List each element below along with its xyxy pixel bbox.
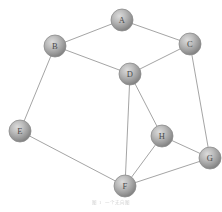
node-circle-e — [9, 120, 31, 142]
node-circle-a — [111, 9, 133, 31]
node-circle-h — [151, 125, 173, 147]
graph-edge-b-d — [65, 50, 120, 71]
graph-edge-e-f — [29, 136, 115, 181]
graph-edge-c-g — [192, 54, 208, 147]
node-circle-f — [114, 175, 136, 197]
graph-node-g[interactable]: G — [199, 147, 221, 169]
node-circle-g — [199, 147, 221, 169]
graph-node-e[interactable]: E — [9, 120, 31, 142]
graph-edge-g-h — [172, 140, 201, 153]
node-circle-b — [44, 35, 66, 57]
graph-edge-c-d — [139, 49, 180, 70]
figure-caption: 图 1 一个无向图 — [0, 199, 222, 205]
graph-diagram: ABCDEFGH — [0, 0, 222, 212]
graph-edge-d-h — [135, 83, 157, 126]
graph-node-b[interactable]: B — [44, 35, 66, 57]
graph-edge-b-e — [24, 56, 51, 122]
node-circle-d — [119, 63, 141, 85]
graph-node-d[interactable]: D — [119, 63, 141, 85]
graph-edge-a-b — [65, 24, 112, 42]
graph-node-h[interactable]: H — [151, 125, 173, 147]
graph-node-f[interactable]: F — [114, 175, 136, 197]
graph-edge-a-c — [132, 23, 180, 40]
graph-node-c[interactable]: C — [179, 33, 201, 55]
node-circle-c — [179, 33, 201, 55]
figure-canvas: ABCDEFGH 图 1 一个无向图 — [0, 0, 222, 212]
graph-edge-f-h — [131, 144, 156, 177]
graph-node-a[interactable]: A — [111, 9, 133, 31]
graph-edge-f-g — [135, 161, 200, 182]
graph-edge-d-f — [125, 84, 129, 175]
node-layer: ABCDEFGH — [9, 9, 221, 197]
